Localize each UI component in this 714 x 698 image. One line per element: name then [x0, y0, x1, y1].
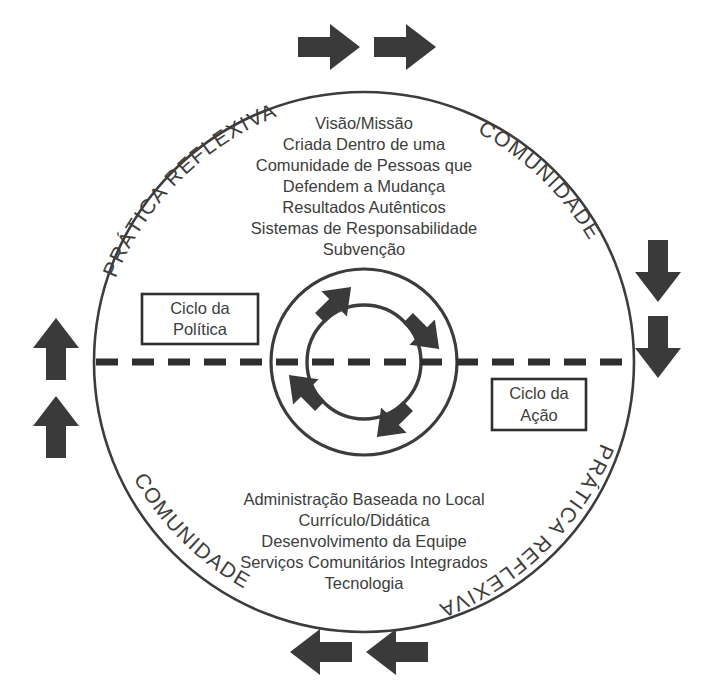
callout-policy: Ciclo da Política — [142, 294, 258, 344]
outer-arrow-bottom-1 — [290, 629, 352, 675]
outer-arrow-top-1 — [298, 24, 360, 70]
top-line-7: Subvenção — [323, 240, 406, 258]
callout-action-line2: Ação — [520, 406, 558, 424]
top-line-6: Sistemas de Responsabilidade — [251, 219, 478, 237]
top-line-2: Criada Dentro de uma — [283, 135, 446, 153]
outer-label-top-left: PRÁTICA REFLEXIVA — [98, 98, 280, 280]
bottom-line-4: Serviços Comunitários Integrados — [240, 553, 488, 571]
diagram-canvas: PRÁTICA REFLEXIVA COMUNIDADE COMUNIDADE … — [0, 0, 714, 698]
outer-arrow-top-2 — [374, 24, 436, 70]
top-line-1: Visão/Missão — [315, 114, 413, 132]
callout-policy-line2: Política — [173, 320, 228, 338]
bottom-text-block: Administração Baseada no Local Currículo… — [240, 490, 488, 592]
top-line-4: Defendem a Mudança — [283, 177, 446, 195]
cycle-diagram: PRÁTICA REFLEXIVA COMUNIDADE COMUNIDADE … — [0, 0, 714, 698]
bottom-line-3: Desenvolvimento da Equipe — [261, 532, 466, 550]
bottom-line-1: Administração Baseada no Local — [243, 490, 484, 508]
outer-arrow-bottom-2 — [366, 629, 428, 675]
bottom-line-2: Currículo/Didática — [298, 511, 430, 529]
outer-arrow-right-1 — [635, 240, 681, 302]
top-line-3: Comunidade de Pessoas que — [256, 156, 472, 174]
top-line-5: Resultados Autênticos — [282, 198, 445, 216]
callout-action: Ciclo da Ação — [492, 379, 586, 430]
outer-arrow-left-1 — [33, 318, 79, 380]
bottom-line-5: Tecnologia — [325, 574, 405, 592]
outer-arrow-left-2 — [33, 396, 79, 458]
callout-policy-line1: Ciclo da — [170, 299, 230, 317]
callout-action-line1: Ciclo da — [509, 384, 569, 402]
outer-label-bottom-left: COMUNIDADE — [130, 469, 255, 593]
outer-arrow-right-2 — [635, 316, 681, 378]
top-text-block: Visão/Missão Criada Dentro de uma Comuni… — [251, 114, 478, 258]
outer-label-top-right: COMUNIDADE — [475, 116, 607, 244]
